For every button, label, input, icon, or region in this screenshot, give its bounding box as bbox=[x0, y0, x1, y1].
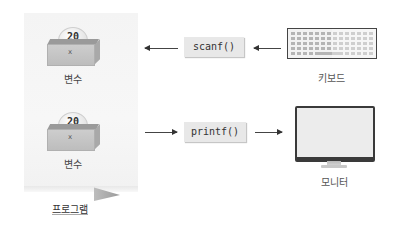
monitor-label: 모니터 bbox=[309, 174, 359, 189]
arrow-from-keyboard bbox=[254, 48, 281, 49]
variable-box-2: 20 x 변수 bbox=[41, 112, 101, 170]
arrow-from-variable bbox=[145, 132, 177, 133]
program-panel-edge bbox=[24, 186, 138, 192]
program-label: 프로그램 bbox=[52, 201, 88, 216]
keyboard-highlight bbox=[332, 29, 376, 58]
arrow-to-monitor bbox=[255, 132, 282, 133]
variable-name: x bbox=[47, 48, 93, 56]
arrow-to-variable bbox=[145, 48, 178, 49]
scanf-box: scanf() bbox=[184, 37, 244, 57]
keyboard-icon bbox=[287, 28, 377, 59]
keyboard-label: 키보드 bbox=[306, 70, 356, 85]
variable-label: 변수 bbox=[41, 156, 105, 171]
monitor-icon bbox=[295, 106, 375, 162]
printf-box: printf() bbox=[184, 122, 246, 142]
variable-name: x bbox=[47, 133, 93, 141]
variable-box-1: 20 x 변수 bbox=[41, 27, 101, 85]
variable-label: 변수 bbox=[41, 71, 105, 86]
monitor-base bbox=[321, 165, 347, 168]
